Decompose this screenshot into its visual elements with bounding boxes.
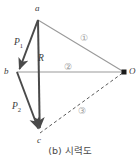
ray-1-line <box>38 20 124 72</box>
point-label-b: b <box>4 67 9 76</box>
point-label-c: c <box>37 136 41 145</box>
point-label-o: O <box>129 67 136 76</box>
vector-label-p2: P2 <box>12 102 21 113</box>
vector-p2-line <box>17 72 38 129</box>
force-polygon-figure: a b c O P1 R P2 ① ② ③ (b) 시력도 <box>0 0 140 161</box>
point-o-marker <box>122 70 127 75</box>
ray-label-2: ② <box>64 63 72 72</box>
vector-r-line <box>38 20 40 128</box>
point-label-a: a <box>35 4 40 13</box>
ray-3-line <box>40 72 124 133</box>
vector-label-p1: P1 <box>14 38 23 49</box>
ray-label-1: ① <box>80 34 88 43</box>
vector-label-r: R <box>38 54 44 64</box>
figure-caption: (b) 시력도 <box>0 146 140 156</box>
vector-label-p1-subscript: 1 <box>20 42 23 49</box>
vector-diagram-canvas <box>0 0 140 145</box>
vector-label-p2-subscript: 2 <box>18 106 21 113</box>
ray-label-3: ③ <box>78 107 86 116</box>
